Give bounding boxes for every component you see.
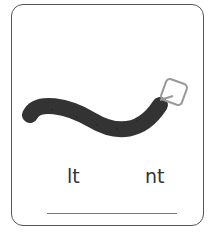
answer-line[interactable]: [47, 213, 177, 214]
option-lt[interactable]: lt: [67, 165, 80, 187]
belt-image: [12, 5, 205, 227]
worksheet-card: lt nt: [11, 4, 204, 226]
option-nt[interactable]: nt: [145, 165, 165, 187]
